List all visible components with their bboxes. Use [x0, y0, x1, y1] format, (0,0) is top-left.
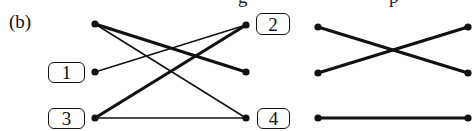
right-dot — [464, 114, 471, 121]
node-box-1: 1 — [48, 62, 85, 83]
node-box-2: 2 — [256, 13, 290, 35]
right-graph-nodes — [314, 23, 471, 121]
node-box-3: 3 — [48, 108, 85, 129]
right-dot — [464, 23, 471, 30]
right-graph-edges — [318, 27, 468, 118]
node-dot-2 — [242, 21, 249, 28]
right-dot — [314, 23, 321, 30]
node-dot-1 — [91, 68, 98, 75]
right-dot — [464, 69, 471, 76]
node-dot-midright — [242, 68, 249, 75]
node-dot-topleft — [91, 20, 98, 27]
right-dot — [314, 114, 321, 121]
right-dot — [314, 69, 321, 76]
node-dot-4 — [242, 114, 249, 121]
left-graph-edges — [95, 24, 246, 118]
node-box-4: 4 — [257, 108, 290, 129]
node-dot-3 — [91, 114, 98, 121]
